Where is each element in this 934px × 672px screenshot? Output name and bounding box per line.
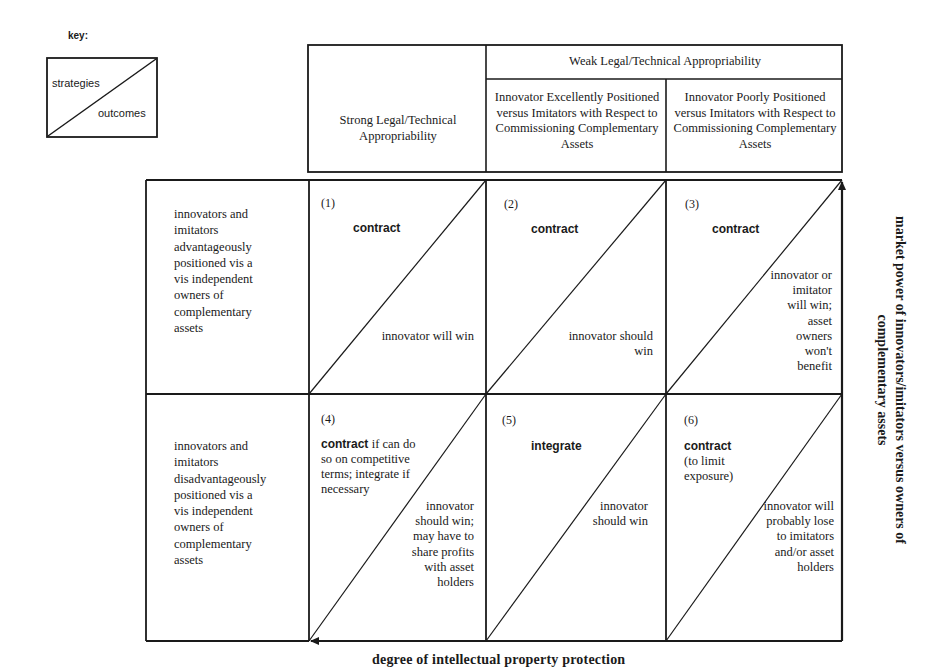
cell-5-number: (5) [502, 413, 516, 428]
column-header-weak: Weak Legal/Technical Appropriability [490, 54, 840, 70]
cell-2-strategy: contract [531, 222, 578, 237]
cell-1-number: (1) [321, 196, 335, 211]
cell-1-strategy: contract [353, 221, 400, 236]
cell-4-outcome: innovator should win; may have to share … [400, 499, 474, 590]
key-strategies-label: strategies [52, 77, 100, 89]
cell-3-strategy: contract [712, 222, 759, 237]
column-header-weak-excellent: Innovator Excellently Positioned versus … [494, 90, 660, 152]
column-header-strong: Strong Legal/Technical Appropriability [318, 113, 478, 144]
cell-2-outcome: innovator should win [560, 329, 653, 359]
x-axis-label: degree of intellectual property protecti… [372, 652, 625, 668]
key-title: key: [68, 30, 88, 41]
cell-6-outcome: innovator will probably lose to imitator… [760, 499, 834, 575]
cell-6-number: (6) [684, 413, 698, 428]
cell-3-outcome: innovator or imitator will win; asset ow… [770, 268, 832, 374]
key-outcomes-label: outcomes [98, 107, 146, 119]
cell-5-outcome: innovator should win [580, 499, 648, 529]
cell-6-strategy: contract(to limit exposure) [684, 439, 754, 484]
row-label-disadvantaged: innovators and imitators disadvantageous… [174, 438, 260, 568]
cell-5-strategy: integrate [531, 439, 582, 454]
cell-3-number: (3) [685, 197, 699, 212]
cell-2-number: (2) [504, 197, 518, 212]
column-header-weak-poor: Innovator Poorly Positioned versus Imita… [673, 90, 837, 152]
cell-4-number: (4) [321, 412, 335, 427]
key-diagonal [48, 59, 156, 136]
y-axis-label: market power of innovators/imitators ver… [873, 210, 909, 550]
cell-4-strategy: contract if can do so on competitive ter… [321, 437, 417, 497]
row-label-advantaged: innovators and imitators advantageously … [174, 206, 260, 336]
cell-1-outcome: innovator will win [380, 329, 474, 344]
